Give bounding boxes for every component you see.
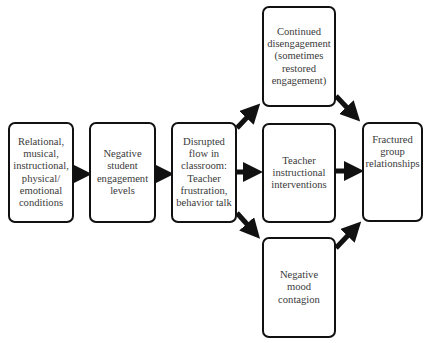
arrow-disrupted-to-mood — [237, 213, 254, 232]
node-disrupted-flow: Disrupted flow in classroom: Teacher fru… — [171, 122, 237, 223]
node-label: Disrupted flow in classroom: Teacher fru… — [176, 136, 232, 209]
node-fractured-relationships: Fractured group relationships — [362, 122, 423, 222]
node-negative-engagement: Negative student engagement levels — [89, 122, 156, 223]
node-label: Teacher instructional interventions — [271, 155, 326, 192]
flow-diagram: Relational, musical, instructional, phys… — [0, 0, 431, 343]
node-label: Negative mood contagion — [278, 269, 320, 306]
node-conditions: Relational, musical, instructional, phys… — [8, 122, 74, 223]
arrow-disrupted-to-continued — [237, 110, 254, 128]
node-negative-mood: Negative mood contagion — [262, 237, 336, 338]
arrow-continued-to-fractured — [336, 96, 354, 115]
node-label: Continued disengagement (sometimes resto… — [267, 26, 331, 87]
arrow-mood-to-fractured — [336, 228, 355, 248]
node-continued-disengagement: Continued disengagement (sometimes resto… — [262, 6, 336, 107]
node-label: Relational, musical, instructional, phys… — [13, 136, 69, 209]
node-label: Negative student engagement levels — [97, 148, 148, 197]
node-teacher-interventions: Teacher instructional interventions — [262, 123, 336, 223]
node-label: Fractured group relationships — [365, 134, 419, 171]
